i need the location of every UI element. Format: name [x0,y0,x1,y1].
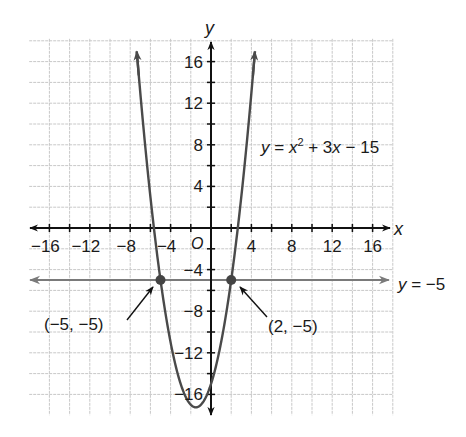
y-tick-label: −8 [184,302,203,321]
x-tick-label: 16 [363,237,382,256]
y-tick-label: 16 [184,53,203,72]
point-label-neg5-neg5: (−5, −5) [44,315,104,334]
y-tick-label: 4 [194,177,203,196]
pointer-arrow-icon [127,287,153,320]
y-tick-label: 12 [184,94,203,113]
x-tick-label: −4 [157,237,176,256]
x-tick-label: −8 [117,237,136,256]
x-tick-label: 12 [323,237,342,256]
intersection-point [156,275,166,285]
parabola-equation-label: y = x2 + 3x − 15 [260,136,379,157]
y-tick-label: 8 [194,136,203,155]
x-tick-label: 8 [287,237,296,256]
intersection-point [226,275,236,285]
x-tick-label: −12 [71,237,100,256]
pointer-arrow-icon [240,287,267,317]
y-tick-label: −16 [174,385,203,404]
axes [30,42,390,415]
curve-arrow-icon [253,51,255,75]
point-label-2-neg5: (2, −5) [268,317,318,336]
y-tick-label: −4 [184,261,203,280]
curve-arrow-icon [137,51,139,75]
horizontal-line-label: y = −5 [397,275,445,294]
origin-label: O [191,235,203,252]
x-tick-label: −16 [31,237,60,256]
y-tick-label: −12 [174,344,203,363]
x-axis-label: x [393,219,404,239]
x-tick-label: 4 [247,237,256,256]
graph: −16−12−8−4481216161284−4−8−12−16 y x O y… [0,0,466,437]
y-axis-label: y [203,18,215,38]
